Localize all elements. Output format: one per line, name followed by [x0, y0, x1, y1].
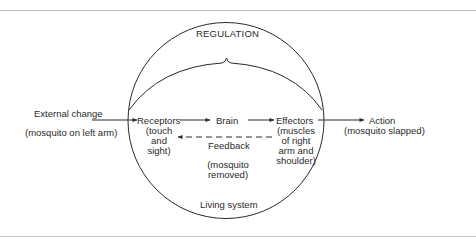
external-change-detail: (mosquito on left arm) — [25, 128, 117, 138]
feedback-detail: (mosquito removed) — [205, 160, 251, 180]
action-detail: (mosquito slapped) — [344, 126, 425, 136]
brain-label: Brain — [216, 116, 238, 126]
feedback-label: Feedback — [208, 141, 250, 151]
effectors-detail: (muscles of right arm and shoulder) — [274, 126, 318, 166]
external-change-label: External change — [34, 109, 103, 119]
living-system-label: Living system — [200, 200, 258, 210]
regulation-title: REGULATION — [196, 29, 259, 39]
regulation-brace-arc — [129, 58, 322, 110]
receptors-detail: (touch and sight) — [144, 126, 174, 156]
